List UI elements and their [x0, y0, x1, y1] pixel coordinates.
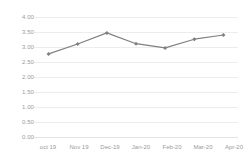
data-point-marker	[47, 52, 51, 56]
data-point-marker	[163, 46, 167, 50]
data-point-marker	[76, 42, 80, 46]
series-markers	[47, 31, 226, 56]
data-point-marker	[221, 33, 225, 37]
data-point-marker	[134, 42, 138, 46]
line-chart: 4.00 3.50 3.00 2.50 2.00 1.50 1.00 0.50 …	[0, 0, 248, 167]
data-point-marker	[105, 31, 109, 35]
series-plot	[0, 0, 248, 167]
data-point-marker	[192, 37, 196, 41]
